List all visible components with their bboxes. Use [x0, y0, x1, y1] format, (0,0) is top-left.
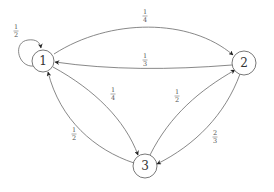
- node-3: 3: [133, 154, 157, 178]
- svg-text:1: 1: [111, 86, 115, 94]
- edge-label-3-2: 1 2: [175, 88, 180, 104]
- edge-1-2: [54, 27, 233, 55]
- edge-label-1-2: 1 4: [143, 8, 148, 24]
- edge-label-1-3: 1 4: [111, 86, 116, 102]
- edge-label-2-3: 2 3: [213, 129, 218, 145]
- svg-text:1: 1: [143, 52, 147, 60]
- svg-text:1: 1: [143, 8, 147, 16]
- svg-text:3: 3: [141, 159, 149, 173]
- node-1: 1: [32, 50, 54, 72]
- svg-text:2: 2: [14, 31, 18, 39]
- svg-text:2: 2: [213, 129, 217, 137]
- svg-text:2: 2: [72, 134, 76, 142]
- node-2: 2: [232, 51, 256, 75]
- edge-label-1-1: 1 2: [14, 23, 19, 39]
- edge-3-2: [150, 70, 235, 155]
- svg-text:1: 1: [39, 54, 47, 68]
- svg-text:3: 3: [143, 60, 147, 68]
- edge-label-3-1: 1 2: [72, 126, 77, 142]
- edge-label-2-1: 1 3: [143, 52, 148, 68]
- markov-chain-diagram: 1 2 1 4 1 3 1 4 1 2 1 2 2 3 1 2: [0, 0, 274, 192]
- edge-1-3: [53, 67, 138, 155]
- svg-text:2: 2: [175, 96, 179, 104]
- svg-text:3: 3: [213, 137, 217, 145]
- svg-text:1: 1: [175, 88, 179, 96]
- svg-text:2: 2: [240, 56, 248, 70]
- svg-text:1: 1: [72, 126, 76, 134]
- svg-text:4: 4: [143, 16, 147, 24]
- edge-2-3: [157, 74, 240, 164]
- svg-text:4: 4: [111, 94, 115, 102]
- svg-text:1: 1: [14, 23, 18, 31]
- edge-3-1: [48, 72, 134, 163]
